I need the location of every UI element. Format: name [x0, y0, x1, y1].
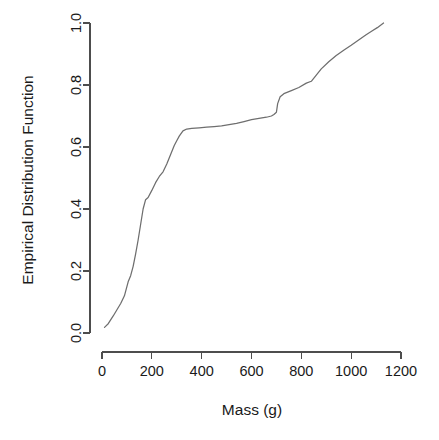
x-tick-label-200: 200 — [140, 363, 164, 379]
y-axis-tick-labels: 0.00.20.40.60.81.0 — [68, 13, 84, 343]
x-axis-ticks — [102, 352, 401, 359]
y-tick-label-1.0: 1.0 — [68, 13, 84, 33]
x-tick-label-800: 800 — [289, 363, 313, 379]
y-axis-ticks — [83, 23, 90, 333]
y-axis-title: Empirical Distribution Function — [19, 75, 36, 284]
ecdf-plot-svg: 0.00.20.40.60.81.0 020040060080010001200… — [0, 0, 439, 440]
y-tick-label-0.4: 0.4 — [68, 199, 84, 219]
x-tick-label-1000: 1000 — [335, 363, 367, 379]
y-tick-label-0.2: 0.2 — [68, 261, 84, 281]
x-tick-label-1200: 1200 — [385, 363, 417, 379]
x-axis-tick-labels: 020040060080010001200 — [98, 363, 417, 379]
ecdf-curve — [104, 23, 383, 327]
y-tick-label-0.8: 0.8 — [68, 75, 84, 95]
x-axis-title: Mass (g) — [222, 401, 282, 418]
y-axis-group: 0.00.20.40.60.81.0 — [68, 13, 90, 343]
x-tick-label-0: 0 — [98, 363, 106, 379]
x-tick-label-600: 600 — [239, 363, 263, 379]
ecdf-chart-figure: 0.00.20.40.60.81.0 020040060080010001200… — [0, 0, 439, 440]
y-tick-label-0.6: 0.6 — [68, 137, 84, 157]
x-tick-label-400: 400 — [190, 363, 214, 379]
x-axis-group: 020040060080010001200 — [98, 352, 417, 379]
y-tick-label-0.0: 0.0 — [68, 323, 84, 343]
